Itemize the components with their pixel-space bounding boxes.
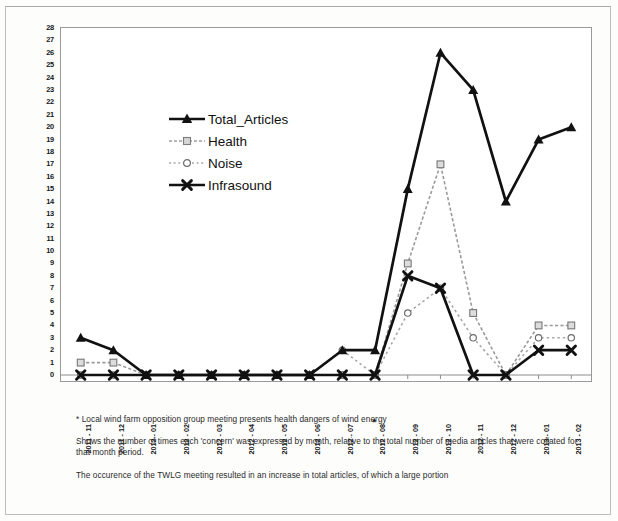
legend-item-infrasound: Infrasound xyxy=(168,174,358,196)
caption-conclusion: The occurence of the TWLG meeting result… xyxy=(76,470,588,481)
caption-block: * Local wind farm opposition group meeti… xyxy=(76,414,588,492)
scanned-page: 2827262524232221201918171615141312111098… xyxy=(0,0,618,521)
data-point-marker xyxy=(535,335,541,341)
data-point-marker xyxy=(568,335,574,341)
y-axis-tick-label: 0 xyxy=(50,371,54,379)
y-axis-tick-label: 26 xyxy=(46,49,54,57)
y-axis-tick-label: 13 xyxy=(46,210,54,218)
y-axis-tick-label: 17 xyxy=(46,160,54,168)
series-line-infrasound xyxy=(81,276,572,375)
y-axis-tick-label: 19 xyxy=(46,136,54,144)
data-point-marker xyxy=(435,48,445,57)
data-point-marker xyxy=(403,184,413,193)
y-axis-tick-label: 27 xyxy=(46,36,54,44)
legend-item-total-articles: Total_Articles xyxy=(168,108,358,130)
data-point-marker xyxy=(77,359,84,366)
chart-legend: Total_Articles Health No xyxy=(168,108,358,196)
data-point-marker xyxy=(470,310,477,317)
y-axis-tick-label: 6 xyxy=(50,297,54,305)
y-axis-tick-label: 7 xyxy=(50,284,54,292)
y-axis-tick-label: 18 xyxy=(46,148,54,156)
y-axis-tick-label: 20 xyxy=(46,123,54,131)
y-axis-tick-label: 25 xyxy=(46,61,54,69)
y-axis-tick-label: 9 xyxy=(50,259,54,267)
y-axis-tick-label: 8 xyxy=(50,272,54,280)
legend-item-noise: Noise xyxy=(168,152,358,174)
data-point-marker xyxy=(535,322,542,329)
y-axis-tick-label: 15 xyxy=(46,185,54,193)
legend-item-health: Health xyxy=(168,130,358,152)
y-axis-tick-label: 14 xyxy=(46,198,54,206)
line-chart: 2827262524232221201918171615141312111098… xyxy=(18,20,600,405)
plot-series-svg xyxy=(60,27,592,382)
data-point-marker xyxy=(76,333,86,342)
legend-label-total-articles: Total_Articles xyxy=(208,112,288,127)
y-axis-tick-label: 5 xyxy=(50,309,54,317)
y-axis-tick-label: 23 xyxy=(46,86,54,94)
y-axis-tick-label: 2 xyxy=(50,346,54,354)
y-axis-tick-label: 21 xyxy=(46,111,54,119)
y-axis-tick-label: 10 xyxy=(46,247,54,255)
y-axis-tick-label: 11 xyxy=(47,235,54,243)
legend-label-infrasound: Infrasound xyxy=(208,178,272,193)
y-axis: 2827262524232221201918171615141312111098… xyxy=(18,20,58,389)
data-point-marker xyxy=(110,359,117,366)
data-point-marker xyxy=(404,260,411,267)
y-axis-tick-label: 24 xyxy=(46,74,54,82)
y-axis-tick-label: 22 xyxy=(46,98,54,106)
y-axis-tick-label: 1 xyxy=(50,359,54,367)
y-axis-tick-label: 28 xyxy=(46,24,54,32)
y-axis-tick-label: 16 xyxy=(46,173,54,181)
data-point-marker xyxy=(566,122,576,131)
series-line-total_articles xyxy=(81,53,572,375)
data-point-marker xyxy=(470,335,476,341)
y-axis-tick-label: 3 xyxy=(50,334,54,342)
circle-line-key-icon xyxy=(168,155,206,171)
legend-label-health: Health xyxy=(208,134,247,149)
caption-footnote: * Local wind farm opposition group meeti… xyxy=(76,414,588,425)
data-point-marker xyxy=(568,322,575,329)
data-point-marker xyxy=(437,161,444,168)
square-line-key-icon xyxy=(168,133,206,149)
cross-line-key-icon xyxy=(168,177,206,193)
triangle-line-key-icon xyxy=(168,111,206,127)
data-point-marker xyxy=(501,197,511,206)
legend-label-noise: Noise xyxy=(208,156,243,171)
data-point-marker xyxy=(405,310,411,316)
y-axis-tick-label: 12 xyxy=(46,222,54,230)
y-axis-tick-label: 4 xyxy=(50,321,54,329)
caption-description: Shows the number of times each 'concern'… xyxy=(76,436,588,458)
